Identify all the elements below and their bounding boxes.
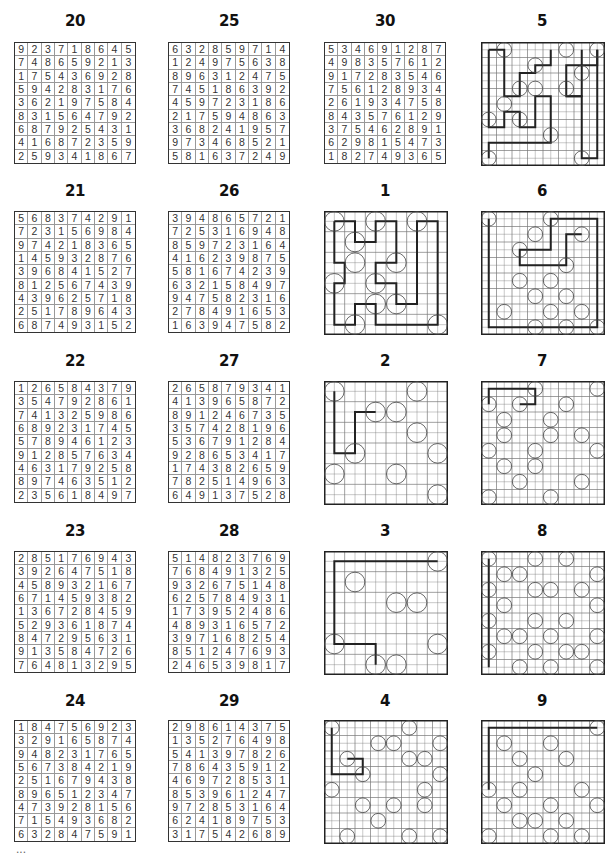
sudoku-cell: 4 bbox=[392, 96, 405, 109]
sudoku-cell: 7 bbox=[222, 579, 235, 592]
sudoku-cell: 7 bbox=[28, 435, 41, 448]
sudoku-cell: 6 bbox=[222, 395, 235, 408]
sudoku-cell: 2 bbox=[378, 83, 391, 96]
sudoku-cell: 5 bbox=[169, 435, 182, 448]
sudoku-cell: 7 bbox=[82, 565, 95, 578]
sudoku-cell: 9 bbox=[262, 734, 275, 747]
sudoku-cell: 7 bbox=[55, 721, 68, 734]
sudoku-cell: 8 bbox=[196, 565, 209, 578]
sudoku-cell: 1 bbox=[276, 774, 289, 787]
sudoku-cell: 7 bbox=[209, 239, 222, 252]
sudoku-cell: 6 bbox=[169, 43, 182, 56]
sudoku-cell: 1 bbox=[42, 592, 55, 605]
sudoku-cell: 6 bbox=[169, 279, 182, 292]
sudoku-cell: 3 bbox=[209, 225, 222, 238]
sudoku-cell: 3 bbox=[418, 83, 431, 96]
sudoku-cell: 1 bbox=[42, 305, 55, 318]
sudoku-cell: 5 bbox=[122, 43, 135, 56]
sudoku-cell: 3 bbox=[249, 382, 262, 395]
sudoku-cell: 9 bbox=[262, 83, 275, 96]
sudoku-cell: 7 bbox=[108, 83, 121, 96]
sudoku-cell: 4 bbox=[196, 56, 209, 69]
sudoku-cell: 4 bbox=[169, 252, 182, 265]
sudoku-cell: 2 bbox=[28, 225, 41, 238]
sudoku-cell: 4 bbox=[418, 70, 431, 83]
sudoku-cell: 3 bbox=[42, 43, 55, 56]
sudoku-cell: 7 bbox=[55, 43, 68, 56]
sudoku-cell: 3 bbox=[276, 645, 289, 658]
sudoku-cell: 8 bbox=[82, 605, 95, 618]
sudoku-cell: 4 bbox=[182, 292, 195, 305]
sudoku-cell: 7 bbox=[262, 70, 275, 83]
sudoku-cell: 4 bbox=[209, 136, 222, 149]
sudoku-cell: 3 bbox=[55, 619, 68, 632]
sudoku-cell: 3 bbox=[122, 552, 135, 565]
sudoku-cell: 3 bbox=[169, 212, 182, 225]
sudoku-cell: 3 bbox=[95, 592, 108, 605]
sudoku-cell: 7 bbox=[378, 110, 391, 123]
sudoku-cell: 6 bbox=[28, 761, 41, 774]
sudoku-cell: 1 bbox=[182, 828, 195, 841]
sudoku-cell: 4 bbox=[236, 265, 249, 278]
sudoku-cell: 2 bbox=[95, 761, 108, 774]
sudoku-cell: 1 bbox=[108, 475, 121, 488]
sudoku-cell: 9 bbox=[222, 748, 235, 761]
sudoku-cell: 4 bbox=[249, 605, 262, 618]
sudoku-cell: 5 bbox=[276, 721, 289, 734]
sudoku-cell: 3 bbox=[182, 435, 195, 448]
sudoku-cell: 9 bbox=[209, 319, 222, 332]
sudoku-cell: 2 bbox=[68, 292, 81, 305]
sudoku-cell: 2 bbox=[236, 462, 249, 475]
sudoku-cell: 1 bbox=[209, 632, 222, 645]
sudoku-cell: 4 bbox=[108, 788, 121, 801]
sudoku-cell: 6 bbox=[209, 449, 222, 462]
sudoku-cell: 5 bbox=[418, 96, 431, 109]
sudoku-cell: 1 bbox=[196, 409, 209, 422]
puzzle-number: 24 bbox=[13, 692, 137, 710]
sudoku-cell: 5 bbox=[15, 83, 28, 96]
sudoku-cell: 5 bbox=[82, 123, 95, 136]
sudoku-cell: 7 bbox=[222, 734, 235, 747]
sudoku-cell: 3 bbox=[15, 96, 28, 109]
sudoku-cell: 1 bbox=[68, 43, 81, 56]
sudoku-cell: 2 bbox=[222, 422, 235, 435]
sudoku-cell: 4 bbox=[365, 123, 378, 136]
sudoku-cell: 3 bbox=[196, 605, 209, 618]
sudoku-cell: 3 bbox=[236, 449, 249, 462]
sudoku-cell: 6 bbox=[28, 212, 41, 225]
sudoku-cell: 6 bbox=[325, 136, 338, 149]
sudoku-cell: 1 bbox=[108, 565, 121, 578]
sudoku-cell: 3 bbox=[169, 632, 182, 645]
sudoku-cell: 6 bbox=[352, 83, 365, 96]
sudoku-cell: 5 bbox=[28, 305, 41, 318]
sudoku-cell: 9 bbox=[122, 605, 135, 618]
sudoku-cell: 5 bbox=[249, 319, 262, 332]
sudoku-cell: 4 bbox=[55, 592, 68, 605]
sudoku-cell: 3 bbox=[276, 814, 289, 827]
sudoku-cell: 7 bbox=[405, 96, 418, 109]
sudoku-cell: 9 bbox=[222, 565, 235, 578]
sudoku-cell: 1 bbox=[276, 382, 289, 395]
sudoku-cell: 8 bbox=[55, 659, 68, 672]
sudoku-cell: 2 bbox=[249, 632, 262, 645]
sudoku-cell: 1 bbox=[222, 475, 235, 488]
sudoku-cell: 6 bbox=[55, 489, 68, 502]
sudoku-cell: 5 bbox=[28, 579, 41, 592]
sudoku-cell: 2 bbox=[55, 632, 68, 645]
sudoku-cell: 9 bbox=[249, 225, 262, 238]
sudoku-cell: 1 bbox=[15, 605, 28, 618]
sudoku-cell: 3 bbox=[196, 136, 209, 149]
sudoku-cell: 1 bbox=[28, 449, 41, 462]
sudoku-cell: 7 bbox=[42, 319, 55, 332]
sudoku-cell: 7 bbox=[82, 96, 95, 109]
sudoku-cell: 2 bbox=[196, 43, 209, 56]
sudoku-cell: 6 bbox=[82, 225, 95, 238]
sudoku-cell: 4 bbox=[82, 212, 95, 225]
sudoku-cell: 6 bbox=[82, 70, 95, 83]
maze-solution bbox=[481, 381, 605, 505]
sudoku-cell: 9 bbox=[28, 788, 41, 801]
sudoku-cell: 7 bbox=[222, 265, 235, 278]
sudoku-cell: 3 bbox=[68, 252, 81, 265]
sudoku-cell: 8 bbox=[222, 592, 235, 605]
sudoku-cell: 2 bbox=[42, 828, 55, 841]
